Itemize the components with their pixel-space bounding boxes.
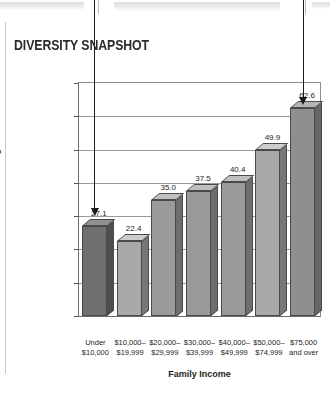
bar-5: 40.4 [221, 182, 246, 316]
bar-value-label-1: 27.1 [78, 209, 120, 218]
bar-2: 22.4 [117, 241, 142, 316]
bar-series: 27.122.435.037.540.449.962.6 [79, 83, 320, 316]
bar-front-face [151, 200, 176, 317]
bar-value-label-2: 22.4 [113, 224, 155, 233]
bar-front-face [290, 108, 315, 316]
bar-1: 27.1 [82, 226, 107, 316]
bar-side-face [176, 194, 183, 316]
bar-front-face [221, 182, 246, 316]
x-axis-title: Family Income [78, 369, 321, 379]
x-label-line: $75,000 [282, 338, 326, 348]
bar-side-face [142, 236, 149, 316]
bar-front-face [255, 150, 280, 316]
bar-side-face [211, 185, 218, 316]
bar-6: 49.9 [255, 150, 280, 316]
page-column-rule-middle [98, 0, 99, 14]
page-column-rule-right [305, 0, 306, 14]
bar-value-label-3: 35.0 [147, 183, 189, 192]
bar-side-face [107, 220, 114, 316]
x-axis-labels: Under$10,000$10,000–$19,999$20,000–$29,9… [78, 338, 321, 364]
bar-value-label-6: 49.9 [251, 133, 293, 142]
bar-side-face [280, 144, 287, 316]
bar-4: 37.5 [186, 191, 211, 316]
bar-side-face [246, 176, 253, 316]
annotation-arrow-under-10000 [94, 0, 95, 209]
scan-artifact-top-right [312, 2, 330, 9]
bar-side-face [315, 102, 322, 316]
bar-front-face [186, 191, 211, 316]
scan-artifact-top-center [114, 2, 280, 11]
page-title: DIVERSITY SNAPSHOT [14, 36, 149, 53]
scan-artifact-top-left [0, 2, 84, 10]
annotation-arrow-75000-and-over [303, 0, 304, 98]
bar-value-label-5: 40.4 [217, 165, 259, 174]
bar-value-label-7: 62.6 [286, 91, 328, 100]
bar-7: 62.6 [290, 108, 315, 316]
bar-front-face [82, 226, 107, 316]
x-axis-label-7: $75,000and over [282, 338, 326, 358]
bar-value-label-4: 37.5 [182, 174, 224, 183]
x-label-line: and over [282, 348, 326, 358]
bar-3: 35.0 [151, 200, 176, 317]
bar-front-face [117, 241, 142, 316]
